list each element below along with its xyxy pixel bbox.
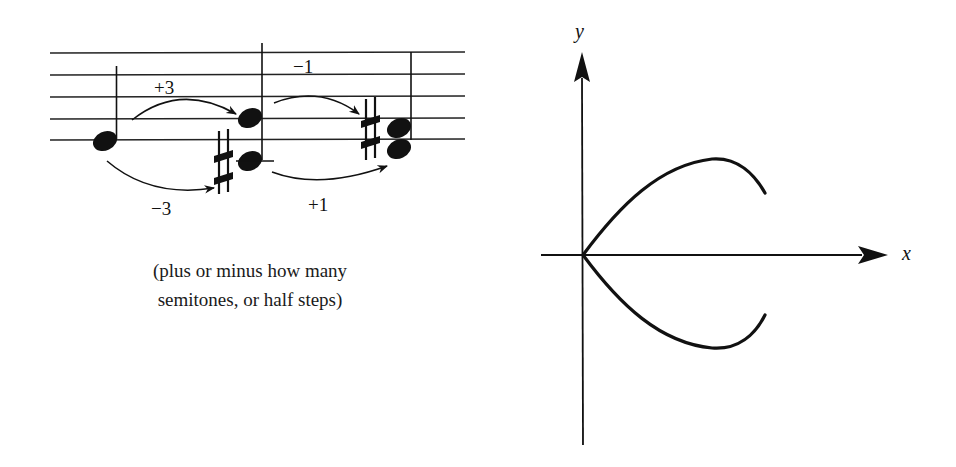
arrow-minus1: [274, 96, 359, 114]
chord-3: [361, 52, 414, 163]
arrow-plus3: [132, 99, 236, 120]
y-axis-arrow-icon: [574, 52, 590, 82]
lower-curve: [583, 255, 765, 348]
music-caption: (plus or minus how many semitones, or ha…: [110, 256, 390, 314]
arrow-plus1: [272, 166, 387, 180]
figure-canvas: +3 −3 −1 +1 y x: [0, 0, 956, 467]
coordinate-graph: [541, 52, 888, 445]
upper-curve: [583, 159, 765, 255]
sharp-icon: [361, 97, 380, 160]
interval-label-minus3: −3: [151, 198, 171, 219]
x-axis-label: x: [901, 242, 911, 264]
x-axis-arrow-icon: [858, 246, 888, 264]
interval-label-minus1: −1: [293, 56, 313, 77]
caption-line-2: semitones, or half steps): [110, 285, 390, 314]
interval-label-plus1: +1: [308, 194, 328, 215]
caption-line-1: (plus or minus how many: [110, 256, 390, 285]
note-1: [90, 66, 121, 155]
sharp-icon: [214, 129, 233, 194]
notehead-upper: [235, 104, 266, 132]
y-axis-label: y: [573, 20, 584, 43]
staff-line-2: [50, 74, 465, 75]
staff-line-3: [50, 96, 465, 97]
y-axis: [582, 78, 583, 445]
interval-label-plus3: +3: [154, 77, 174, 98]
arrow-minus3: [107, 161, 214, 190]
staff-line-1: [50, 52, 465, 53]
